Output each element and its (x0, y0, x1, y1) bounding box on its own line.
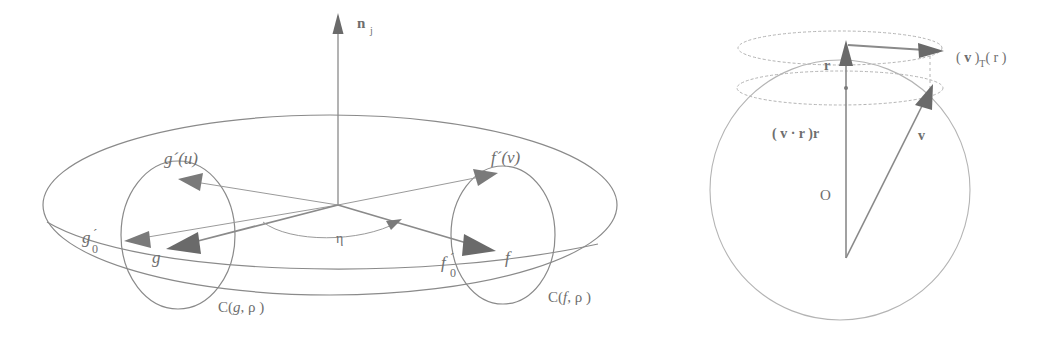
normal-axis-arrowhead (333, 13, 344, 34)
label-projection-normal: ( v · r )r (772, 126, 819, 142)
label-normal-vector-subscript: j (369, 25, 373, 36)
label-circle-g-rho: , ρ ) (241, 299, 265, 316)
great-circle-arc (47, 222, 598, 269)
label-circle-g: C(g, ρ ) (218, 299, 264, 316)
vector-f-prime-v-line (338, 177, 480, 205)
vector-f-line (338, 205, 470, 244)
label-circle-f-prefix: C( (548, 289, 563, 306)
angle-eta-arc (263, 222, 398, 238)
figure-svg: n j g´(u) f´(v) g 0 ´ g η f 0 ´ f C(g, ρ… (0, 0, 1062, 345)
label-g-zero-prime-subscript: 0 (92, 242, 98, 256)
label-f-prime-v: f´(v) (491, 148, 521, 167)
label-g-prime-u: g´(u) (164, 149, 198, 168)
label-tangential-tail: ( r ) (985, 50, 1006, 66)
vector-tangential-line (848, 45, 925, 50)
label-tangential-open: ( (956, 50, 964, 66)
label-projection-tangential: ( v )T( r ) (956, 50, 1007, 69)
label-g-zero-prime-mark: ´ (93, 226, 97, 241)
label-normal-vector: n (357, 15, 366, 31)
vector-g-prime-u-line (195, 182, 338, 205)
label-g-zero-prime: g (82, 228, 91, 247)
vector-r-arrowhead (839, 40, 853, 66)
vector-v-arrowhead (915, 84, 933, 110)
label-circle-g-prefix: C( (218, 299, 233, 316)
vector-v-line (846, 100, 925, 258)
figure-root: n j g´(u) f´(v) g 0 ´ g η f 0 ´ f C(g, ρ… (0, 0, 1062, 345)
vector-g-prime-u-arrowhead (178, 173, 203, 191)
vector-g0-prime-line (142, 205, 338, 238)
tangent-plane-ellipse (43, 115, 617, 295)
vector-f-prime-v-arrowhead (473, 169, 498, 186)
label-f-zero-prime-mark: ´ (450, 250, 454, 265)
label-origin: O (820, 187, 831, 203)
label-circle-f-rho: , ρ ) (567, 289, 591, 306)
lower-latitude-ellipse (737, 71, 943, 105)
right-panel-group: r v ( v · r )r O ( v )T( r ) (710, 31, 1007, 320)
vector-tangential-arrowhead (918, 43, 944, 58)
label-f-zero-prime: f (441, 253, 448, 272)
vector-f-arrowhead (462, 234, 496, 256)
vector-g0-prime-arrowhead (124, 231, 151, 248)
label-tangential-v: v (964, 50, 971, 65)
label-v-vector: v (918, 128, 925, 143)
label-eta: η (336, 231, 343, 246)
label-circle-f: C(f, ρ ) (548, 289, 591, 306)
lower-ellipse-point-marker (844, 86, 848, 90)
vector-g-arrowhead (166, 232, 201, 254)
label-r-vector: r (824, 58, 830, 73)
left-panel-group: n j g´(u) f´(v) g 0 ´ g η f 0 ´ f C(g, ρ… (43, 13, 617, 316)
label-g: g (152, 248, 161, 267)
label-f: f (505, 248, 512, 267)
label-f-zero-prime-subscript: 0 (450, 266, 456, 280)
circle-f-ellipse (451, 166, 555, 304)
